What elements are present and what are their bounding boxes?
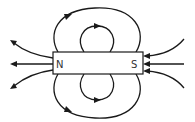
bar-magnet: N S	[53, 52, 143, 74]
bar-magnet-field-diagram: N S	[0, 0, 195, 122]
arrow-icon	[94, 97, 101, 103]
field-line-right-middle	[143, 61, 184, 67]
arrow-icon	[94, 23, 101, 29]
arrow-icon	[64, 14, 72, 20]
field-line-left-lower	[10, 70, 53, 89]
field-line-inner-bottom-loop	[80, 74, 113, 103]
south-pole-label: S	[131, 59, 137, 70]
magnet-body	[53, 52, 143, 74]
arrow-icon	[64, 106, 72, 112]
north-pole-label: N	[56, 59, 63, 70]
field-line-inner-top-loop	[80, 23, 113, 52]
arrow-icon	[143, 61, 150, 67]
field-line-right-lower	[143, 68, 184, 88]
arrow-icon	[10, 61, 17, 67]
field-line-left-upper	[10, 40, 53, 58]
field-line-left-middle	[10, 61, 53, 67]
arrow-icon	[143, 53, 150, 59]
field-line-outer-top-loop	[54, 8, 140, 52]
arrow-icon	[143, 68, 150, 74]
field-line-right-upper	[143, 39, 184, 59]
field-line-outer-bottom-loop	[54, 74, 140, 118]
